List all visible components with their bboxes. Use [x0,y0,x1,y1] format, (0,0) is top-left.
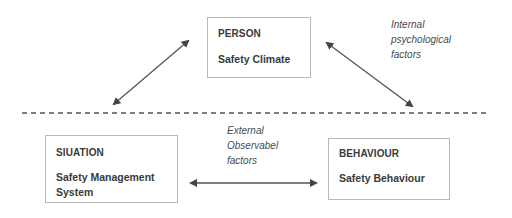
internal-factors-label: Internal psychological factors [391,17,451,62]
external-factors-label: External Observabel factors [227,123,278,168]
person-subtitle: Safety Climate [218,52,290,67]
person-node: PERSON Safety Climate [207,17,311,78]
behaviour-subtitle: Safety Behaviour [339,171,425,186]
situation-title: SIUATION [56,147,104,158]
internal-line3: factors [391,47,451,62]
behaviour-title: BEHAVIOUR [339,148,399,159]
internal-line2: psychological [391,32,451,47]
situation-node: SIUATION Safety Management System [45,135,178,203]
arrow-person-situation [114,41,188,104]
person-title: PERSON [218,28,261,39]
situation-subtitle-line2: System [56,185,93,200]
internal-line1: Internal [391,17,451,32]
behaviour-node: BEHAVIOUR Safety Behaviour [328,138,450,200]
external-line1: External [227,123,278,138]
external-line3: factors [227,153,278,168]
situation-subtitle-line1: Safety Management [56,170,155,185]
external-line2: Observabel [227,138,278,153]
